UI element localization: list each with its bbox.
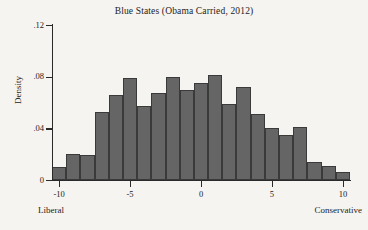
x-tick-mark — [272, 181, 273, 187]
y-tick-mark — [46, 77, 52, 78]
histogram-bar — [322, 166, 336, 180]
histogram-bar — [80, 155, 94, 180]
y-tick-mark — [46, 180, 52, 181]
x-tick-label: 5 — [252, 189, 292, 199]
x-tick-mark — [343, 181, 344, 187]
histogram-bar — [151, 93, 165, 180]
histogram-bar — [66, 154, 80, 180]
y-tick-label: .08 — [4, 71, 44, 81]
histogram-bar — [293, 127, 307, 180]
x-tick-mark — [201, 181, 202, 187]
histogram-bar — [194, 83, 208, 180]
x-tick-label: -5 — [110, 189, 150, 199]
y-tick-mark — [46, 128, 52, 129]
histogram-bar — [95, 112, 109, 180]
x-tick-mark — [59, 181, 60, 187]
histogram-bar — [166, 77, 180, 180]
x-axis-right-label: Conservative — [315, 205, 363, 215]
histogram-bar — [208, 75, 222, 180]
y-tick-label: .04 — [4, 123, 44, 133]
histogram-bar — [236, 87, 250, 180]
histogram-bar — [123, 78, 137, 180]
histogram-bar — [251, 114, 265, 180]
chart-title: Blue States (Obama Carried, 2012) — [0, 6, 368, 16]
y-tick-mark — [46, 25, 52, 26]
x-tick-label: 0 — [181, 189, 221, 199]
y-axis-line — [52, 24, 53, 181]
histogram-bar — [336, 172, 350, 180]
x-axis-left-label: Liberal — [38, 205, 64, 215]
x-tick-mark — [130, 181, 131, 187]
histogram-bar — [222, 104, 236, 180]
histogram-chart: Blue States (Obama Carried, 2012) 0.04.0… — [0, 0, 368, 230]
histogram-bar — [109, 95, 123, 180]
x-tick-label: -10 — [39, 189, 79, 199]
histogram-bar — [52, 167, 66, 180]
histogram-bar — [279, 135, 293, 180]
y-tick-label: .12 — [4, 20, 44, 30]
histogram-bar — [265, 128, 279, 180]
y-axis-title: Density — [13, 60, 23, 120]
histogram-bar — [307, 162, 321, 180]
bars-layer — [52, 25, 350, 180]
plot-area — [52, 25, 350, 180]
x-tick-label: 10 — [323, 189, 363, 199]
histogram-bar — [180, 90, 194, 180]
histogram-bar — [137, 106, 151, 180]
y-tick-label: 0 — [4, 175, 44, 185]
